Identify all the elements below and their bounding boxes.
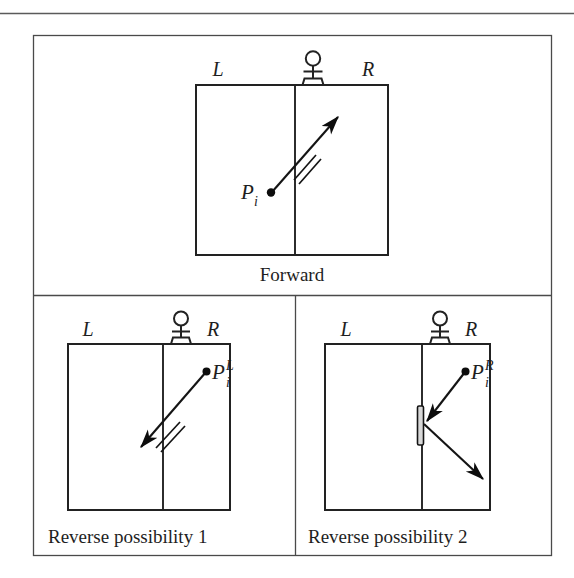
incident-arrow-rev2 — [427, 372, 465, 421]
point-label-subscript: i — [254, 194, 258, 209]
panel-caption-forward: Forward — [260, 264, 325, 285]
point-label-base: P — [470, 360, 484, 384]
left-room-label-rev1: L — [81, 318, 93, 340]
source-point-dot-forward — [267, 188, 275, 196]
panel-caption-rev2: Reverse possibility 2 — [308, 526, 467, 547]
right-room-label-forward: R — [361, 58, 374, 80]
trajectory-arrow-rev1 — [141, 372, 206, 447]
trajectory-arrow-forward — [272, 117, 338, 192]
point-label-forward: P i — [240, 180, 258, 209]
panel-reverse-possibility-1: L R P L i Reverse possibility 1 — [48, 312, 234, 548]
point-label-base: P — [211, 360, 225, 384]
figure-canvas: L R P i Forward — [0, 0, 574, 578]
reflected-arrow-rev2 — [424, 424, 483, 479]
panel-reverse-possibility-2: L R P R i Reverse possibility 2 — [308, 312, 494, 548]
antenna-sensor-icon — [430, 312, 450, 345]
figure-root: L R P i Forward — [0, 0, 574, 578]
antenna-sensor-icon — [303, 51, 324, 85]
point-label-base: P — [240, 180, 254, 204]
source-point-dot-rev1 — [203, 368, 211, 376]
wall-segment-rev2 — [418, 406, 424, 445]
source-point-dot-rev2 — [462, 368, 470, 376]
point-label-subscript: i — [226, 375, 230, 390]
tick-mark-forward — [294, 155, 321, 184]
point-label-subscript: i — [485, 375, 489, 390]
panel-caption-rev1: Reverse possibility 1 — [48, 526, 207, 547]
tick-mark-rev1 — [156, 422, 185, 452]
left-room-label-forward: L — [211, 58, 223, 80]
point-label-superscript: L — [225, 358, 234, 373]
right-room-label-rev2: R — [464, 318, 477, 340]
panel-forward: L R P i Forward — [196, 51, 388, 285]
right-room-label-rev1: R — [206, 318, 219, 340]
point-label-superscript: R — [484, 358, 494, 373]
antenna-sensor-icon — [171, 312, 191, 345]
left-room-label-rev2: L — [339, 318, 351, 340]
